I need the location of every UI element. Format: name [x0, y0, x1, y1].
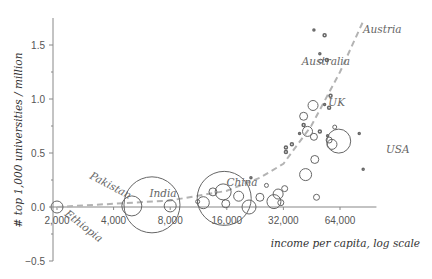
bubble — [273, 189, 283, 199]
bubble — [324, 103, 326, 105]
bubble — [282, 186, 288, 192]
bubble — [264, 183, 268, 187]
x-tick-label: 64,000 — [325, 215, 356, 226]
y-tick-label: 0.5 — [31, 148, 45, 159]
bubble — [234, 191, 244, 201]
y-tick-label: 1.5 — [31, 40, 45, 51]
bubble — [302, 123, 305, 126]
label-uk: UK — [328, 96, 346, 108]
label-usa: USA — [386, 143, 410, 155]
bubble — [358, 133, 360, 135]
bubble — [284, 146, 287, 149]
bubble-chart: −0.50.00.51.01.5 2,0004,0008,00016,00032… — [0, 0, 432, 279]
label-pakistan: Pakistan — [87, 169, 134, 201]
bubble-india — [124, 177, 180, 233]
bubble — [310, 133, 317, 140]
bubble-austria — [323, 34, 326, 37]
bubble — [333, 125, 337, 129]
y-tick-label: 0.0 — [31, 202, 45, 213]
y-axis: −0.50.00.51.01.5 — [25, 18, 53, 267]
bubble — [164, 200, 176, 212]
bubble — [318, 130, 321, 133]
y-tick-label: −0.5 — [25, 256, 45, 267]
x-tick-label: 32,000 — [268, 215, 299, 226]
bubble-usa — [327, 129, 351, 153]
bubble — [311, 155, 319, 163]
y-axis-title: # top 1,000 universities / million — [12, 52, 24, 227]
bubble-uk — [308, 100, 318, 110]
x-tick-label: 4,000 — [101, 215, 126, 226]
bubble — [299, 133, 301, 135]
bubble — [290, 143, 293, 146]
bubble — [300, 169, 312, 181]
bubble — [313, 29, 315, 31]
label-australia: Australia — [301, 55, 350, 67]
bubble — [284, 150, 287, 153]
label-china: China — [226, 176, 257, 188]
bubble — [314, 194, 320, 200]
x-axis-title: income per capita, log scale — [271, 237, 420, 249]
bubble — [300, 112, 308, 120]
bubble — [256, 193, 264, 201]
label-india: India — [148, 187, 176, 199]
label-austria: Austria — [362, 23, 402, 35]
x-axis: 2,0004,0008,00016,00032,00064,000 — [44, 207, 376, 226]
y-tick-label: 1.0 — [31, 94, 45, 105]
x-tick-label: 8,000 — [158, 215, 183, 226]
bubble — [362, 168, 364, 170]
